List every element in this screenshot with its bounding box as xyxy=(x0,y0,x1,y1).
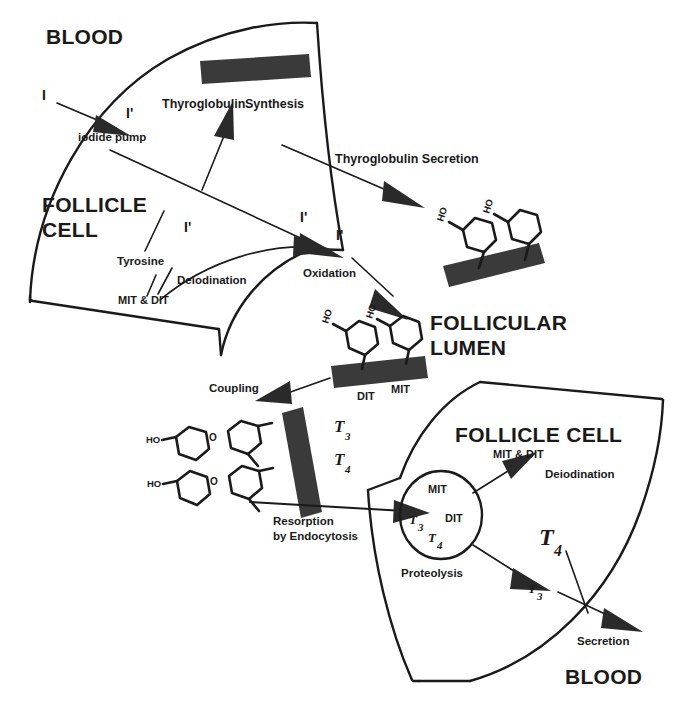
svg-text:3: 3 xyxy=(536,590,543,602)
label-ho-coupled-2: HO xyxy=(147,478,161,489)
t3-label-coupling: T 3 xyxy=(334,417,351,442)
svg-text:T: T xyxy=(539,524,555,550)
label-mit-dit-bottom: MIT & DIT xyxy=(493,448,544,460)
thyroglobulin-synthesis-arrow xyxy=(202,101,234,190)
label-mit-dit-top: MIT & DIT xyxy=(118,294,169,306)
svg-text:T: T xyxy=(334,450,345,469)
label-mit-lumen: MIT xyxy=(391,383,410,395)
label-ho-coupled-1: HO xyxy=(146,434,160,445)
label-blood-top: BLOOD xyxy=(46,25,123,48)
oxidation-to-lumen-arrow xyxy=(352,258,408,320)
svg-text:4: 4 xyxy=(344,463,351,475)
svg-text:4: 4 xyxy=(553,542,562,559)
label-mit-vesicle: MIT xyxy=(428,483,447,495)
label-follicular-lumen-line1: FOLLICULAR xyxy=(430,311,567,334)
label-thyroglobulin-synthesis-part2: Synthesis xyxy=(245,97,304,111)
coupled-hormone-molecules: HO O HO O xyxy=(146,407,322,518)
t3-label-secreted: T 3 xyxy=(528,581,543,602)
label-oxidation: Oxidation xyxy=(303,267,356,279)
proteolysis-vesicle: MIT DIT T 3 T 4 Proteolysis xyxy=(400,471,482,579)
label-o-bridge-1: O xyxy=(209,432,217,443)
label-secretion: Secretion xyxy=(577,635,629,647)
label-o-bridge-2: O xyxy=(210,476,218,487)
svg-text:3: 3 xyxy=(344,430,351,442)
label-resorption-line1: Resorption xyxy=(273,515,334,527)
t4-label-vesicle: T 4 xyxy=(428,530,443,551)
svg-text:T: T xyxy=(334,417,345,436)
lumen-thyroglobulin-molecules-upper: HO HO xyxy=(434,198,545,287)
label-deiodination-bottom: Deiodination xyxy=(545,468,615,480)
svg-text:4: 4 xyxy=(436,539,443,551)
label-follicle-cell-top-line1: FOLLICLE xyxy=(42,193,147,216)
label-ho-upper-1: HO xyxy=(434,206,449,223)
diagram-canvas: BLOOD FOLLICLE CELL I I' iodide pump Thy… xyxy=(0,0,690,707)
label-deiodination-top: Deiodination xyxy=(177,274,247,286)
hormone-transport-arrow xyxy=(473,545,551,591)
thyroid-synthesis-diagram: BLOOD FOLLICLE CELL I I' iodide pump Thy… xyxy=(0,0,690,707)
t4-label-secreted: T 4 xyxy=(539,524,562,559)
label-follicle-cell-top-line2: CELL xyxy=(42,218,98,241)
label-coupling: Coupling xyxy=(209,382,259,394)
label-ho-mid-1: HO xyxy=(319,308,334,325)
coupling-arrow xyxy=(255,378,330,404)
label-iodide-cell-3: I' xyxy=(300,209,307,225)
label-dit-lumen: DIT xyxy=(357,390,375,402)
label-iodide-blood: I xyxy=(42,87,46,103)
thyroglobulin-bar-top xyxy=(200,54,311,84)
svg-text:T: T xyxy=(528,581,537,596)
label-thyroglobulin-secretion: Thyroglobulin Secretion xyxy=(335,152,479,166)
label-iodide-cell-2: I' xyxy=(184,219,191,235)
label-dit-vesicle: DIT xyxy=(445,512,463,524)
svg-text:T: T xyxy=(428,530,437,545)
t4-label-coupling: T 4 xyxy=(334,450,351,475)
label-iodide-pump: iodide pump xyxy=(78,131,146,143)
label-iodide-lumen: I' xyxy=(336,227,343,243)
label-ho-upper-2: HO xyxy=(480,198,495,215)
label-iodide-cell-1: I' xyxy=(126,105,133,121)
label-proteolysis: Proteolysis xyxy=(401,567,463,579)
label-resorption-line2: by Endocytosis xyxy=(273,530,358,542)
label-blood-bottom: BLOOD xyxy=(565,665,642,688)
lumen-mit-dit-molecules: HO HO DIT MIT xyxy=(319,303,428,402)
label-thyroglobulin-synthesis-part1: Thyroglobulin xyxy=(162,97,245,111)
svg-text:T: T xyxy=(409,512,418,527)
label-follicle-cell-bottom: FOLLICLE CELL xyxy=(455,423,622,446)
label-follicular-lumen-line2: LUMEN xyxy=(430,336,506,359)
svg-text:3: 3 xyxy=(417,521,424,533)
label-tyrosine: Tyrosine xyxy=(117,255,164,267)
